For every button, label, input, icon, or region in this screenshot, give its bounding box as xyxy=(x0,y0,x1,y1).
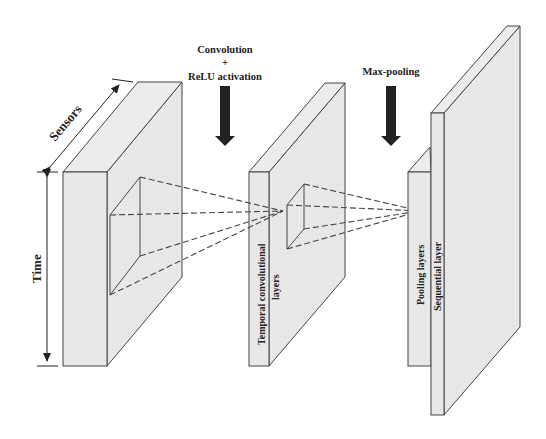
pooling-label: Pooling layers xyxy=(415,245,426,305)
input-front-face xyxy=(63,172,107,366)
down-arrow-icon xyxy=(215,136,235,146)
temporal-label-line2: layers xyxy=(270,274,281,300)
sensors-label: Sensors xyxy=(46,102,85,144)
cnn-diagram: Sensors Time Convolution + ReLU activati… xyxy=(0,0,546,439)
temporal-label-line1: Temporal convolutional xyxy=(256,243,267,345)
pooling-layer: Pooling layers xyxy=(408,147,431,366)
convolution-operation: Convolution + ReLU activation xyxy=(188,44,262,146)
down-arrow-shaft xyxy=(386,86,396,136)
down-arrow-shaft xyxy=(220,86,230,136)
temporal-conv-layer: Temporal convolutional layers xyxy=(249,83,345,366)
time-label: Time xyxy=(29,254,44,283)
down-arrow-icon xyxy=(381,136,401,146)
input-block xyxy=(63,82,182,366)
sequential-layer: Sequential layer xyxy=(431,26,520,415)
plus-label: + xyxy=(222,57,228,68)
sequential-label: Sequential layer xyxy=(432,241,443,311)
convolution-label: Convolution xyxy=(197,44,253,55)
relu-label: ReLU activation xyxy=(188,71,262,82)
max-pooling-operation: Max-pooling xyxy=(362,66,420,146)
time-dimension: Time xyxy=(29,177,58,366)
max-pooling-label: Max-pooling xyxy=(362,66,420,77)
pooling-top-face xyxy=(408,147,431,172)
